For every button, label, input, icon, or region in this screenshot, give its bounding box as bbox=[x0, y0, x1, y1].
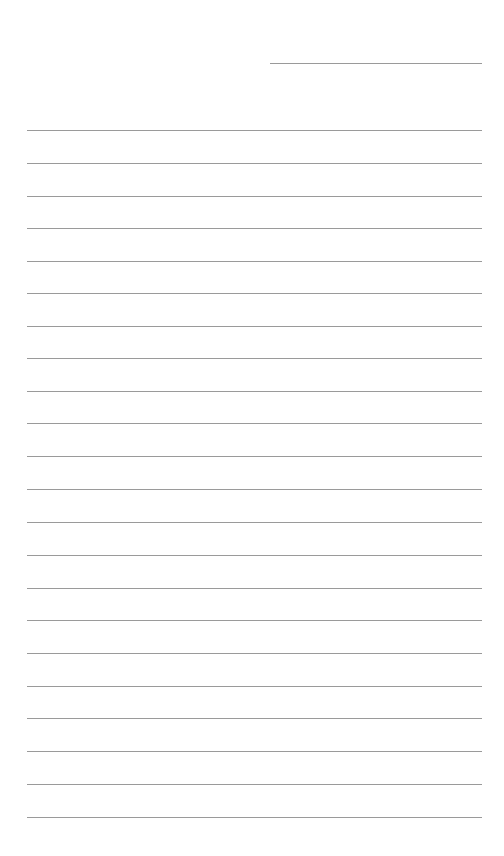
ruled-line bbox=[27, 653, 482, 654]
ruled-line bbox=[27, 817, 482, 818]
ruled-line bbox=[27, 358, 482, 359]
ruled-line bbox=[27, 423, 482, 424]
header-date-line bbox=[270, 63, 482, 64]
ruled-line bbox=[27, 784, 482, 785]
ruled-line bbox=[27, 489, 482, 490]
ruled-line bbox=[27, 391, 482, 392]
ruled-line bbox=[27, 130, 482, 131]
ruled-line bbox=[27, 751, 482, 752]
ruled-line bbox=[27, 718, 482, 719]
ruled-line bbox=[27, 326, 482, 327]
ruled-line bbox=[27, 522, 482, 523]
ruled-line bbox=[27, 196, 482, 197]
ruled-line bbox=[27, 228, 482, 229]
ruled-line bbox=[27, 261, 482, 262]
ruled-line bbox=[27, 163, 482, 164]
ruled-line bbox=[27, 293, 482, 294]
ruled-line bbox=[27, 686, 482, 687]
ruled-line bbox=[27, 588, 482, 589]
ruled-line bbox=[27, 620, 482, 621]
ruled-line bbox=[27, 456, 482, 457]
ruled-line bbox=[27, 555, 482, 556]
lined-paper-page bbox=[0, 0, 504, 856]
